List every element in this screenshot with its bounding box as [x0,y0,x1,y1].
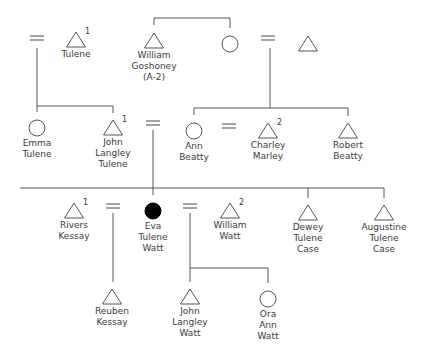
person-name-line: William [138,50,171,60]
male-triangle-icon [339,123,358,138]
female-circle-icon [29,120,45,136]
person-name-line: Augustine [361,222,407,232]
person-name-line: Tulene [60,49,91,59]
people: 1TuleneWilliamGoshoney(A-2)EmmaTulene1Jo… [21,27,407,341]
person-name-line: Ora [260,309,276,319]
person-charley-marley: 2CharleyMarley [251,118,286,161]
person-reuben-kessay: ReubenKessay [95,289,129,327]
female-circle-icon [260,291,276,307]
male-triangle-icon [299,36,318,51]
person-name-line: John [179,306,200,316]
person-name-line: Rivers [60,220,88,230]
person-name-line: Langley [95,148,131,158]
female-circle-icon [222,36,238,52]
male-triangle-icon [375,205,394,220]
person-name-line: William [214,220,247,230]
person-beatty-father [299,36,318,51]
marriage-equals-icon [222,124,236,128]
male-triangle-icon [104,120,123,135]
person-john-langley-tulene: 1JohnLangleyTulene [95,115,131,169]
male-triangle-icon [65,203,84,218]
person-name-line: Tulene [137,232,168,242]
person-name-line: Case [373,244,395,254]
marriage-order-marker: 2 [277,118,282,127]
person-william-goshoney: WilliamGoshoney(A-2) [132,33,178,82]
person-name-line: Marley [253,151,284,161]
marriage-equals-icon [106,204,120,208]
person-name-line: Beatty [179,152,209,162]
person-robert-beatty: RobertBeatty [333,123,363,161]
person-name-line: Watt [180,328,201,338]
person-rivers-kessay: 1RiversKessay [58,198,90,241]
person-name-line: Charley [251,140,286,150]
person-name-line: Kessay [58,231,90,241]
person-name-line: Reuben [95,306,129,316]
person-name-line: Kessay [96,317,128,327]
person-name-line: Watt [143,243,164,253]
marriage-order-marker: 1 [83,198,88,207]
kinship-diagram: 1TuleneWilliamGoshoney(A-2)EmmaTulene1Jo… [0,0,424,345]
person-name-line: Langley [172,317,208,327]
person-name-line: Tulene [97,159,128,169]
male-triangle-icon [181,289,200,304]
person-name-line: Ann [259,320,277,330]
male-triangle-icon [103,289,122,304]
person-name-line: Tulene [292,233,323,243]
person-eva-tulene-watt: EvaTuleneWatt [137,203,168,253]
person-name-line: Tulene [368,233,399,243]
person-william-watt: 2WilliamWatt [214,198,247,241]
person-name-line: John [102,137,123,147]
person-name-line: Watt [220,231,241,241]
female-circle-icon [186,123,202,139]
person-goshoney-sister [222,36,238,52]
person-name-line: Goshoney [132,61,178,71]
person-augustine-tulene-case: AugustineTuleneCase [361,205,407,254]
person-name-line: Robert [333,140,363,150]
marriage-equals-icon [183,204,197,208]
male-triangle-icon [145,33,164,48]
male-triangle-icon [67,32,86,47]
person-tulene: 1Tulene [60,27,91,59]
person-name-line: Ann [185,141,203,151]
person-dewey-tulene-case: DeweyTuleneCase [292,205,324,254]
person-name-line: Beatty [333,151,363,161]
marriage-order-marker: 1 [85,27,90,36]
marriage-equals-icon [30,36,44,40]
person-name-line: Eva [145,221,162,231]
person-name-line: Tulene [21,149,52,159]
marriage-order-marker: 2 [239,198,244,207]
marriage-order-marker: 1 [122,115,127,124]
person-name-line: (A-2) [143,72,165,82]
person-name-line: Watt [258,331,279,341]
marriage-equals-icon [261,36,275,40]
male-triangle-icon [221,203,240,218]
person-emma-tulene: EmmaTulene [21,120,52,159]
person-ann-beatty: AnnBeatty [179,123,209,162]
person-name-line: Case [297,244,319,254]
person-name-line: Dewey [293,222,324,232]
female-circle-icon [145,203,161,219]
male-triangle-icon [299,205,318,220]
person-name-line: Emma [23,138,52,148]
marriage-equals-icon [146,121,160,125]
person-ora-ann-watt: OraAnnWatt [258,291,279,341]
male-triangle-icon [259,123,278,138]
person-john-langley-watt: JohnLangleyWatt [172,289,208,338]
